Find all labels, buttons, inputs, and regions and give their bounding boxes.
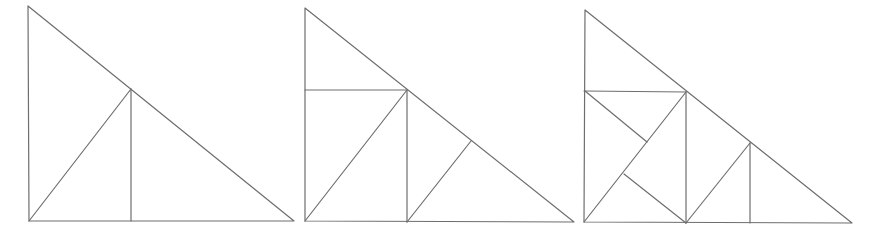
triangle-outline xyxy=(28,6,294,221)
triangle-outline xyxy=(305,8,574,222)
subdivision-line xyxy=(29,89,131,221)
subdivision-line xyxy=(584,91,686,92)
triangle-figure-3 xyxy=(584,10,852,223)
triangle-figure-2 xyxy=(305,8,574,222)
subdivision-line xyxy=(624,174,686,223)
diagram-canvas xyxy=(0,0,884,245)
subdivision-line xyxy=(585,91,647,142)
triangle-subdivision-diagram xyxy=(0,0,884,245)
triangle-figure-1 xyxy=(28,6,294,221)
triangle-outline xyxy=(584,10,852,223)
subdivision-line xyxy=(584,92,686,222)
subdivision-line xyxy=(407,141,471,222)
subdivision-line xyxy=(686,143,750,223)
subdivision-line xyxy=(305,90,407,221)
